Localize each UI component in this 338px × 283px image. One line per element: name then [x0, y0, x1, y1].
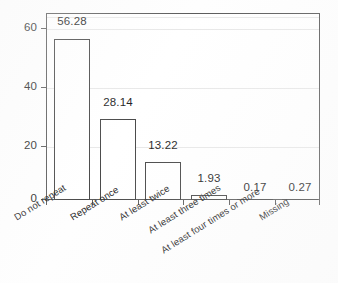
bar-chart: 60 40 20 0 56.28 28.14 13.22 1.93 0.17 0… — [0, 0, 338, 283]
value-label-missing: 0.27 — [276, 181, 324, 193]
y-axis-label-60: 60 — [0, 21, 37, 33]
y-tick-20 — [41, 146, 46, 147]
bar-do-not-repeat[interactable] — [54, 39, 90, 200]
y-tick-40 — [41, 87, 46, 88]
y-axis-label-20: 20 — [0, 139, 37, 151]
value-label-at-least-twice: 13.22 — [139, 139, 187, 151]
gridline-60 — [47, 29, 319, 30]
y-tick-60 — [41, 28, 46, 29]
value-label-at-least-three-times: 1.93 — [185, 172, 233, 184]
bar-repeat-once[interactable] — [100, 119, 136, 200]
y-axis-label-40: 40 — [0, 80, 37, 92]
value-label-do-not-repeat: 56.28 — [48, 15, 96, 27]
x-tick-6 — [319, 200, 320, 205]
value-label-repeat-once: 28.14 — [94, 96, 142, 108]
